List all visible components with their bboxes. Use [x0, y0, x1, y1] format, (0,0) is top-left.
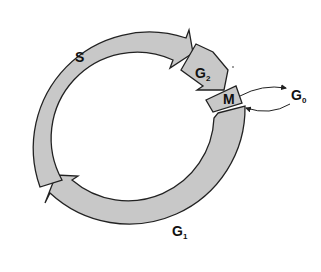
g0-label: G0 [291, 87, 307, 105]
g1-phase-segment [45, 106, 245, 224]
g1-phase-label: G1 [172, 223, 188, 241]
cell-cycle-diagram: S G2 M G1 G0 [0, 0, 321, 272]
from-g0-arrow [246, 104, 290, 111]
s-phase-segment [33, 30, 193, 187]
m-phase-label: M [223, 91, 235, 107]
to-g0-arrow [240, 87, 286, 96]
dot-mark [232, 66, 234, 68]
s-phase-label: S [75, 49, 84, 65]
